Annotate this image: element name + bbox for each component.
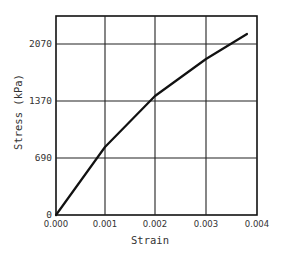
stress-strain-chart: 0 690 1370 2070 0.000 0.001 0.002 0.003 … (0, 0, 282, 259)
x-axis-label: Strain (131, 234, 169, 246)
x-tick-label: 0.004 (245, 219, 269, 229)
x-tick-label: 0.003 (194, 219, 218, 229)
y-gridlines (56, 44, 257, 158)
x-tick-label: 0.002 (143, 219, 167, 229)
y-tick-label: 1370 (29, 95, 52, 106)
y-tick-label: 2070 (29, 38, 52, 49)
x-tick-label: 0.001 (93, 219, 117, 229)
y-tick-label: 690 (35, 152, 52, 163)
stress-strain-line (56, 34, 247, 215)
x-gridlines (105, 16, 206, 215)
y-axis-label: Stress (kPa) (12, 74, 24, 150)
x-tick-label: 0.000 (44, 219, 68, 229)
